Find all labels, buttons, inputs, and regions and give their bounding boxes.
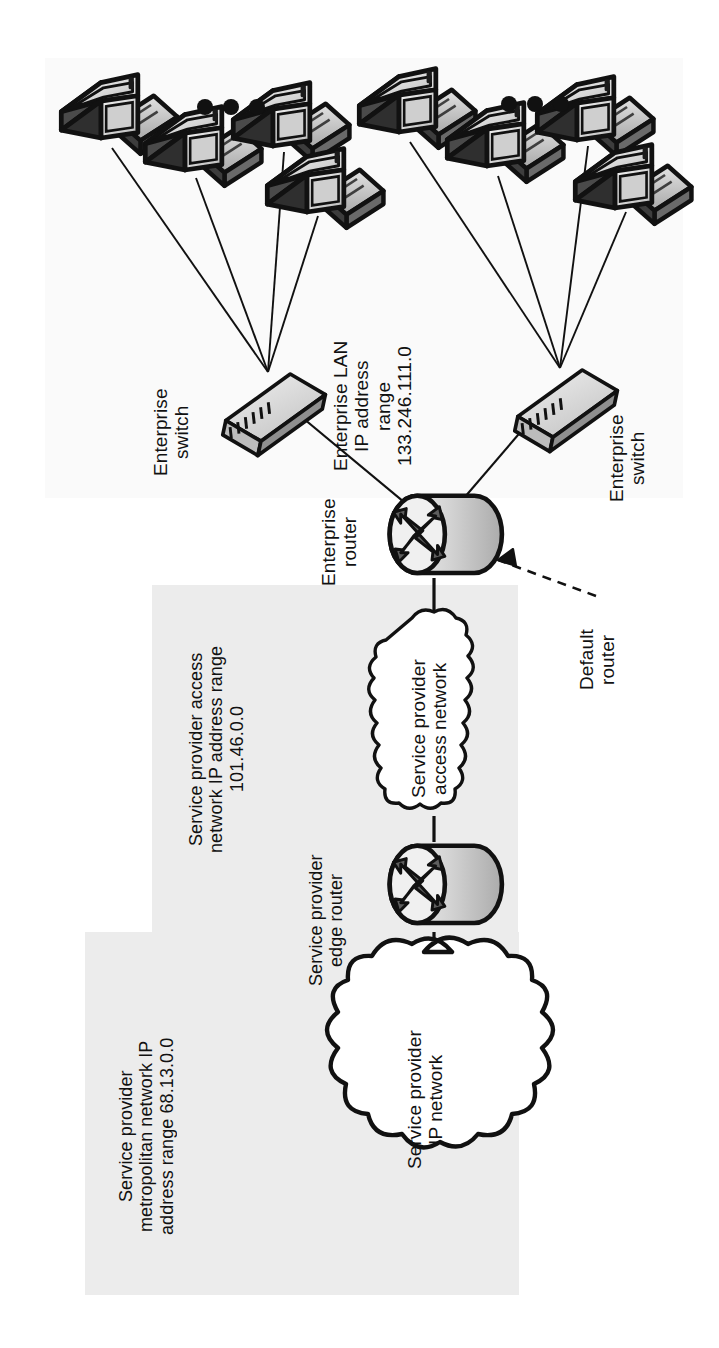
- label-sp-edge-router: Service provider edge router: [306, 834, 347, 1006]
- ellipsis-dots-right: [501, 96, 569, 112]
- sp-edge-router-icon: [390, 846, 502, 923]
- label-sp-access-cloud: Service provider access network: [408, 654, 451, 804]
- label-enterprise-lan: Enterprise LAN IP address range 133.246.…: [330, 300, 416, 512]
- label-default-router: Default router: [576, 608, 619, 712]
- label-sp-ip-network-cloud: Service provider IP network: [404, 1030, 447, 1170]
- ellipsis-dots-left: [197, 99, 265, 115]
- label-enterprise-switch-right: Enterprise switch: [606, 398, 649, 518]
- network-diagram-canvas: Enterprise switch Enterprise LAN IP addr…: [0, 0, 719, 1348]
- label-enterprise-switch-left: Enterprise switch: [150, 372, 193, 492]
- label-sp-metro-region: Service provider metropolitan network IP…: [116, 990, 177, 1282]
- label-enterprise-router: Enterprise router: [318, 484, 361, 600]
- label-sp-access-region: Service provider access network IP addre…: [186, 604, 247, 894]
